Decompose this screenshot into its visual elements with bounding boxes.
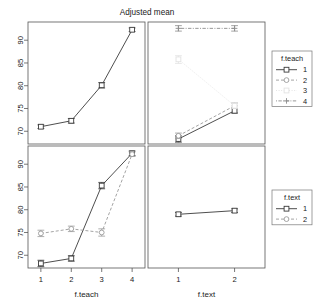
datapoint-top-right-4-2 <box>232 26 238 32</box>
datapoint-top-left-overall-1 <box>38 124 43 129</box>
xtick-label-c0-2: 2 <box>69 275 73 284</box>
datapoint-bottom-left-2-1 <box>38 231 43 236</box>
ytick-label-r1-70: 70 <box>16 251 25 259</box>
xtick-label-c0-1: 1 <box>39 275 43 284</box>
series-line-bottom-right-1 <box>178 211 234 215</box>
xaxis-title-c0: f.teach <box>74 290 98 299</box>
marker-square <box>284 206 289 211</box>
datapoint-top-left-overall-3 <box>99 83 104 88</box>
legend-f-teach-key-marker-2 <box>284 78 289 83</box>
marker-square <box>130 27 135 32</box>
interaction-plot-svg: Adjusted mean707075758080858590901234f.t… <box>0 0 319 305</box>
series-bottom-right-1 <box>175 209 238 216</box>
marker-square <box>284 67 289 72</box>
ytick-label-r1-80: 80 <box>16 206 25 214</box>
legend-f-text-key-marker-2 <box>284 217 289 222</box>
legend-f-text-label-1: 1 <box>303 204 307 213</box>
legend-f-teach-title: f.teach <box>281 54 303 63</box>
chart-canvas: Adjusted mean707075758080858590901234f.t… <box>0 0 319 305</box>
marker-circle <box>284 217 289 222</box>
marker-square <box>284 88 289 93</box>
series-top-right-3 <box>175 56 238 109</box>
series-bottom-left-1 <box>37 151 135 267</box>
panel-frame-r1c0 <box>28 146 145 268</box>
datapoint-top-left-overall-4 <box>130 27 135 32</box>
xtick-label-c1-2: 2 <box>232 275 236 284</box>
ytick-label-r0-70: 70 <box>16 127 25 135</box>
marker-square <box>232 108 237 113</box>
datapoint-bottom-left-1-2 <box>69 256 74 261</box>
legend-f-teach-label-1: 1 <box>303 65 307 74</box>
ytick-label-r0-80: 80 <box>16 82 25 90</box>
marker-circle <box>38 231 43 236</box>
marker-circle <box>176 133 181 138</box>
datapoint-top-right-4-1 <box>176 26 182 32</box>
marker-square <box>69 256 74 261</box>
datapoint-bottom-right-1-1 <box>176 212 181 217</box>
legend-f-text-title: f.text <box>284 193 300 202</box>
datapoint-top-right-1-2 <box>232 108 237 113</box>
marker-square <box>99 83 104 88</box>
marker-square <box>99 183 104 188</box>
marker-circle <box>130 152 135 157</box>
ytick-label-r0-75: 75 <box>16 104 25 112</box>
series-line-top-right-1 <box>178 111 234 139</box>
marker-circle <box>99 230 104 235</box>
legend-f-teach-key-marker-1 <box>284 67 289 72</box>
series-top-right-1 <box>175 108 238 142</box>
chart-title: Adjusted mean <box>120 8 175 17</box>
marker-circle <box>284 78 289 83</box>
marker-square <box>232 103 237 108</box>
datapoint-top-right-3-1 <box>176 57 181 62</box>
legend-f-text-label-2: 2 <box>303 215 307 224</box>
datapoint-bottom-left-1-3 <box>99 183 104 188</box>
legend-f-text-key-marker-1 <box>284 206 289 211</box>
series-line-top-right-3 <box>178 59 234 105</box>
datapoint-top-right-2-1 <box>176 133 181 138</box>
ytick-label-r1-90: 90 <box>16 160 25 168</box>
datapoint-bottom-left-1-1 <box>38 261 43 266</box>
marker-square <box>38 124 43 129</box>
xtick-label-c1-1: 1 <box>176 275 180 284</box>
legend-f-teach-key-marker-3 <box>284 88 289 93</box>
datapoint-bottom-left-2-2 <box>69 226 74 231</box>
legend-f-teach-label-2: 2 <box>303 76 307 85</box>
marker-circle <box>69 226 74 231</box>
legend-f-teach-label-3: 3 <box>303 86 307 95</box>
series-top-right-2 <box>175 103 238 139</box>
datapoint-bottom-left-2-4 <box>130 152 135 157</box>
ytick-label-r0-85: 85 <box>16 59 25 67</box>
marker-square <box>176 212 181 217</box>
series-line-top-right-2 <box>178 106 234 136</box>
series-line-top-left-overall <box>41 30 132 127</box>
legend-f-teach-label-4: 4 <box>303 97 307 106</box>
datapoint-top-right-3-2 <box>232 103 237 108</box>
datapoint-bottom-left-2-3 <box>99 230 104 235</box>
datapoint-bottom-right-1-2 <box>232 208 237 213</box>
marker-square <box>232 208 237 213</box>
ytick-label-r1-85: 85 <box>16 183 25 191</box>
xaxis-title-c1: f.text <box>198 290 216 299</box>
marker-square <box>176 57 181 62</box>
series-bottom-left-2 <box>37 152 135 237</box>
ytick-label-r0-90: 90 <box>16 36 25 44</box>
panel-frame-r1c1 <box>148 146 265 268</box>
series-line-bottom-left-1 <box>41 153 132 263</box>
marker-square <box>38 261 43 266</box>
xtick-label-c0-4: 4 <box>130 275 134 284</box>
series-top-left-overall <box>37 28 135 129</box>
series-top-right-4 <box>175 26 238 31</box>
datapoint-top-left-overall-2 <box>69 118 74 123</box>
marker-square <box>69 118 74 123</box>
ytick-label-r1-75: 75 <box>16 228 25 236</box>
xtick-label-c0-3: 3 <box>100 275 104 284</box>
